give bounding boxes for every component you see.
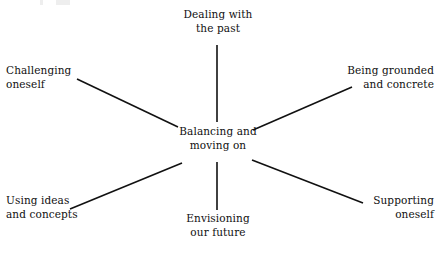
node-challenging-oneself: Challenging oneself <box>6 64 116 91</box>
connector-top-right <box>253 87 352 130</box>
node-dealing-with-the-past: Dealing with the past <box>163 8 273 35</box>
center-node: Balancing and moving on <box>168 125 268 152</box>
node-being-grounded-and-concrete: Being grounded and concrete <box>314 64 434 91</box>
node-using-ideas-and-concepts: Using ideas and concepts <box>6 194 126 221</box>
node-supporting-oneself: Supporting oneself <box>334 194 434 221</box>
diagram-canvas: Balancing and moving on Dealing with the… <box>0 0 439 255</box>
node-envisioning-our-future: Envisioning our future <box>168 212 268 239</box>
